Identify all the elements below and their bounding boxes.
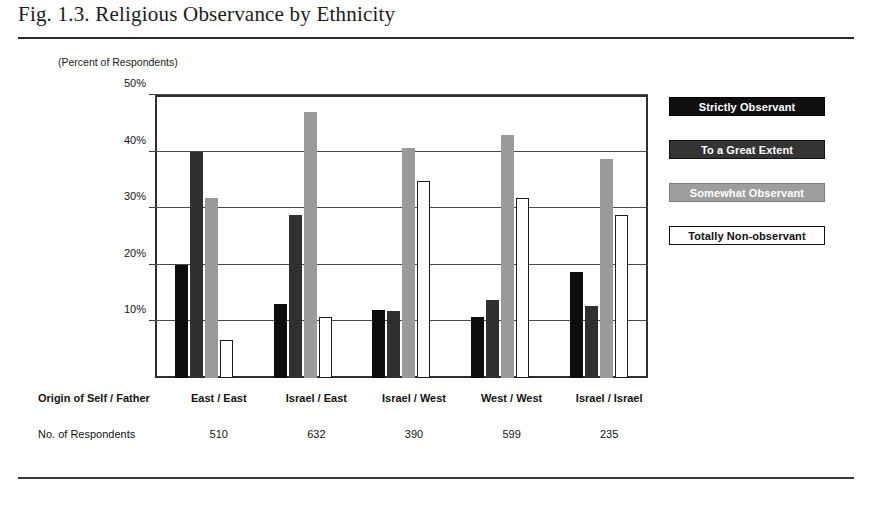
legend-item: To a Great Extent — [669, 140, 825, 159]
legend-item: Strictly Observant — [669, 97, 825, 116]
bar — [417, 181, 430, 378]
bar — [585, 306, 598, 378]
y-tick-label: 40% — [124, 134, 146, 146]
bar-group — [155, 95, 254, 378]
bar — [175, 265, 188, 378]
legend-item: Somewhat Observant — [669, 183, 825, 202]
category-label: East / East — [170, 392, 268, 404]
bar — [190, 152, 203, 378]
bar — [372, 310, 385, 378]
bar — [274, 304, 287, 378]
bar — [615, 215, 628, 378]
bar — [570, 272, 583, 378]
legend: Strictly ObservantTo a Great ExtentSomew… — [669, 97, 825, 269]
respondent-count: 599 — [463, 428, 561, 440]
respondent-count: 235 — [560, 428, 658, 440]
footer-table: Origin of Self / Father East / EastIsrae… — [38, 392, 658, 450]
bar — [516, 198, 529, 378]
bar-group — [352, 95, 451, 378]
y-tick-label: 50% — [124, 77, 146, 89]
respondent-count: 510 — [170, 428, 268, 440]
category-cells: East / EastIsrael / EastIsrael / WestWes… — [170, 392, 658, 404]
table-row: No. of Respondents 510632390599235 — [38, 428, 658, 450]
table-row: Origin of Self / Father East / EastIsrae… — [38, 392, 658, 414]
category-label: Israel / West — [365, 392, 463, 404]
legend-item: Totally Non-observant — [669, 226, 825, 245]
category-label: Israel / East — [268, 392, 366, 404]
y-tick-label: 20% — [124, 247, 146, 259]
respondent-cells: 510632390599235 — [170, 428, 658, 440]
axis-caption: (Percent of Respondents) — [58, 56, 178, 68]
bar — [600, 159, 613, 378]
bar — [319, 317, 332, 378]
bar — [402, 148, 415, 378]
y-tick-label: 10% — [124, 303, 146, 315]
bar-groups — [155, 95, 648, 378]
divider-bottom — [18, 477, 854, 479]
page-title: Fig. 1.3. Religious Observance by Ethnic… — [18, 2, 395, 27]
category-label: Israel / Israel — [560, 392, 658, 404]
bar — [486, 300, 499, 378]
bar — [304, 112, 317, 378]
respondent-count: 390 — [365, 428, 463, 440]
bar — [205, 198, 218, 378]
respondent-count: 632 — [268, 428, 366, 440]
bar — [471, 317, 484, 378]
bar-group — [254, 95, 353, 378]
y-tick-label: 30% — [124, 190, 146, 202]
bar — [220, 340, 233, 378]
origin-label: Origin of Self / Father — [38, 392, 170, 404]
bar-group — [451, 95, 550, 378]
respondents-label: No. of Respondents — [38, 428, 170, 440]
category-label: West / West — [463, 392, 561, 404]
figure-page: Fig. 1.3. Religious Observance by Ethnic… — [0, 0, 871, 515]
bar — [289, 215, 302, 378]
plot-area: 10%20%30%40%50% — [155, 95, 648, 378]
divider-top — [18, 37, 854, 39]
bar-group — [549, 95, 648, 378]
bar — [501, 135, 514, 378]
bar — [387, 311, 400, 378]
